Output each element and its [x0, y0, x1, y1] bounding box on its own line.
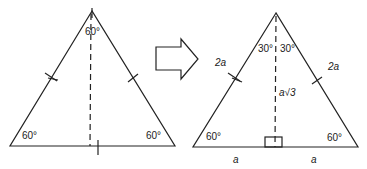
- right-triangle: [193, 13, 358, 147]
- left-side-label: 2a: [214, 57, 227, 68]
- diagram: 60° 60° 60° 30° 30° 2a 2a a√3 60° 60° a …: [0, 0, 367, 169]
- left-apex-angle: 60°: [85, 26, 100, 37]
- left-base-angle: 60°: [22, 130, 37, 141]
- right-base-label: a: [311, 154, 317, 165]
- height-label: a√3: [279, 87, 296, 98]
- arrow-icon: [156, 39, 198, 79]
- right-top-right-angle: 30°: [280, 43, 295, 54]
- right-base-angle: 60°: [146, 130, 161, 141]
- tick-right: [312, 77, 322, 84]
- right-right-base-angle: 60°: [327, 132, 342, 143]
- right-angle-marker: [265, 137, 282, 147]
- right-side-label: 2a: [327, 61, 340, 72]
- left-base-label: a: [233, 154, 239, 165]
- tick-right: [128, 74, 138, 82]
- right-left-base-angle: 60°: [206, 131, 221, 142]
- tick-left-2: [45, 73, 57, 81]
- altitude-dashed: [275, 16, 276, 147]
- triangle-diagram: 60° 60° 60° 30° 30° 2a 2a a√3 60° 60° a …: [0, 0, 367, 169]
- right-top-left-angle: 30°: [258, 43, 273, 54]
